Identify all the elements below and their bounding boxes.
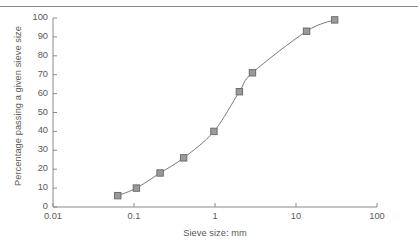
x-tick-label: 100 <box>357 211 397 221</box>
series-data-markers <box>115 17 338 199</box>
data-point-marker <box>303 28 309 34</box>
grading-curve-line <box>118 20 335 196</box>
x-tick-label: 1 <box>195 211 235 221</box>
data-point-marker <box>211 128 217 134</box>
y-tick-label: 20 <box>20 163 48 173</box>
y-tick-label: 100 <box>20 12 48 22</box>
chart-figure: 0102030405060708090100 0.010.1110100 Per… <box>0 0 418 245</box>
x-axis-ticks <box>53 203 377 207</box>
data-point-marker <box>157 170 163 176</box>
data-point-marker <box>331 17 337 23</box>
axis-lines <box>53 18 377 207</box>
x-tick-label: 0.1 <box>114 211 154 221</box>
data-point-marker <box>133 185 139 191</box>
x-tick-label: 10 <box>276 211 316 221</box>
data-point-marker <box>236 89 242 95</box>
y-tick-label: 60 <box>20 88 48 98</box>
y-tick-label: 10 <box>20 182 48 192</box>
data-point-marker <box>249 70 255 76</box>
plot-area <box>0 0 418 245</box>
y-axis-ticks <box>53 18 57 207</box>
data-point-marker <box>115 192 121 198</box>
y-tick-label: 30 <box>20 144 48 154</box>
y-tick-label: 70 <box>20 69 48 79</box>
series-line-path <box>118 20 335 196</box>
x-axis-title: Sieve size: mm <box>53 228 377 238</box>
y-tick-label: 50 <box>20 107 48 117</box>
x-tick-label: 0.01 <box>33 211 73 221</box>
y-tick-label: 80 <box>20 50 48 60</box>
y-tick-label: 90 <box>20 31 48 41</box>
data-point-marker <box>180 155 186 161</box>
y-tick-label: 0 <box>20 201 48 211</box>
y-tick-label: 40 <box>20 125 48 135</box>
y-axis-title: Percentage passing a given sieve size <box>13 11 23 201</box>
